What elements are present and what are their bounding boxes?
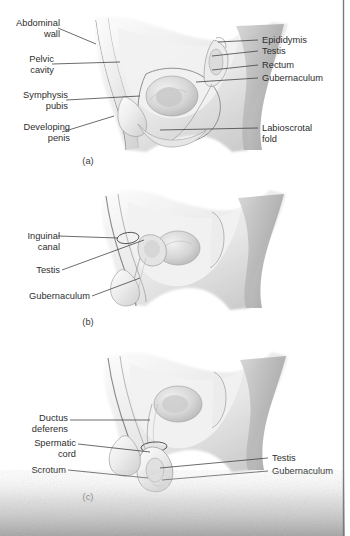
label-rectum: Rectum — [262, 60, 294, 70]
label-ductus-deferens-line2: deferens — [32, 424, 69, 434]
panel-a-illustration — [52, 16, 288, 152]
label-developing-penis-line2: penis — [48, 133, 71, 143]
label-inguinal-canal-line1: Inguinal — [27, 231, 60, 241]
label-spermatic-cord-line2: cord — [58, 449, 76, 459]
label-developing-penis-line1: Developing — [23, 122, 70, 132]
label-spermatic-cord-line1: Spermatic — [34, 438, 76, 448]
label-gubernaculum-b: Gubernaculum — [29, 291, 90, 301]
label-pelvic-cavity-line1: Pelvic — [29, 54, 54, 64]
label-abdominal-wall-line2: wall — [43, 29, 60, 39]
caption-panel-b: (b) — [82, 317, 93, 327]
label-inguinal-canal-line2: canal — [38, 242, 60, 252]
label-abdominal-wall-line1: Abdominal — [16, 18, 60, 28]
scan-edge-margin — [345, 0, 350, 536]
figure-root: Abdominal wall Pelvic cavity Symphysis p… — [0, 0, 350, 536]
label-labioscrotal-fold-line1: Labioscrotal — [262, 123, 312, 133]
label-labioscrotal-fold-line2: fold — [262, 134, 277, 144]
caption-panel-a: (a) — [82, 156, 93, 166]
label-testis-b: Testis — [36, 265, 60, 275]
panel-b-illustration — [58, 190, 286, 310]
label-symphysis-pubis-line1: Symphysis — [23, 90, 68, 100]
label-ductus-deferens-line1: Ductus — [39, 413, 68, 423]
label-testis-c: Testis — [272, 453, 296, 463]
label-testis-a: Testis — [262, 46, 286, 56]
label-gubernaculum-a: Gubernaculum — [262, 73, 323, 83]
label-symphysis-pubis-line2: pubis — [46, 101, 69, 111]
panel-b-labels: Inguinal canal Testis Gubernaculum (b) — [27, 231, 93, 327]
label-epididymis: Epididymis — [262, 35, 307, 45]
scan-noise-band — [0, 470, 350, 536]
label-pelvic-cavity-line2: cavity — [30, 65, 54, 75]
anatomical-figure: Abdominal wall Pelvic cavity Symphysis p… — [0, 0, 350, 536]
